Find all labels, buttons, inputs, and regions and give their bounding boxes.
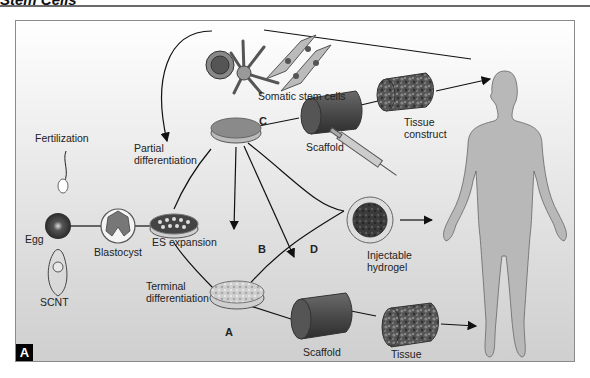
diagram-graphics	[16, 21, 575, 362]
label-partial-differentiation: Partial differentiation	[134, 142, 197, 166]
label-blastocyst: Blastocyst	[94, 246, 142, 258]
label-tissue-construct-c: Tissue construct	[404, 116, 447, 140]
label-scaffold-c: Scaffold	[306, 141, 344, 153]
label-somatic-stem-cells: Somatic stem cells	[258, 90, 346, 102]
path-label-a: A	[225, 326, 233, 338]
header-rule	[0, 5, 590, 7]
label-tissue-construct-a: Tissue construct	[391, 348, 434, 362]
label-egg: Egg	[25, 233, 44, 245]
path-label-d: D	[310, 243, 318, 255]
label-terminal-differentiation: Terminal differentiation	[146, 280, 209, 304]
label-es-expansion: ES expansion	[152, 236, 217, 248]
label-scnt: SCNT	[40, 296, 69, 308]
label-injectable-hydrogel: Injectable hydrogel	[367, 249, 412, 273]
panel-badge: A	[16, 344, 33, 361]
path-label-c: C	[259, 115, 267, 127]
diagram-panel: Fertilization Egg SCNT Blastocyst ES exp…	[15, 20, 575, 362]
label-scaffold-a: Scaffold	[303, 346, 341, 358]
path-label-b: B	[258, 243, 266, 255]
label-fertilization: Fertilization	[35, 132, 89, 144]
